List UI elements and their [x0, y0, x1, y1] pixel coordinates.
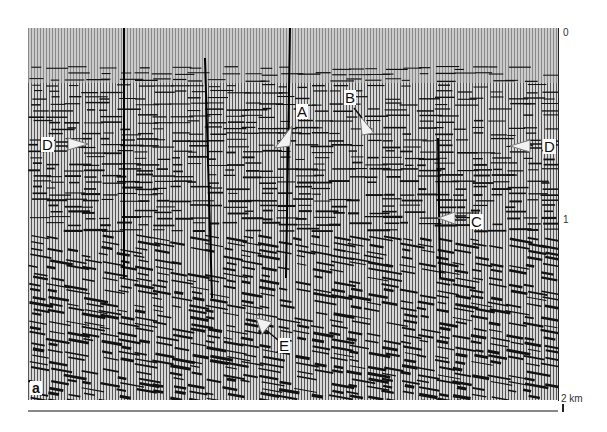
depth-tick-1: 1 [563, 215, 569, 225]
next-panel-tick [562, 404, 564, 412]
depth-axis-line [558, 28, 559, 401]
marker-label-a: A [296, 104, 308, 119]
figure-divider-line [28, 410, 558, 412]
marker-label-d-right: D [543, 139, 556, 154]
panel-label: a [30, 381, 42, 395]
marker-label-b: B [344, 90, 356, 105]
seismic-figure: 0 1 2 km a A B C D D E [0, 0, 607, 432]
depth-tick-0: 0 [563, 28, 569, 38]
marker-label-e: E [278, 338, 290, 353]
depth-tick-2km: 2 km [561, 394, 583, 404]
marker-label-c: C [470, 214, 483, 229]
marker-label-d-left: D [41, 137, 54, 152]
